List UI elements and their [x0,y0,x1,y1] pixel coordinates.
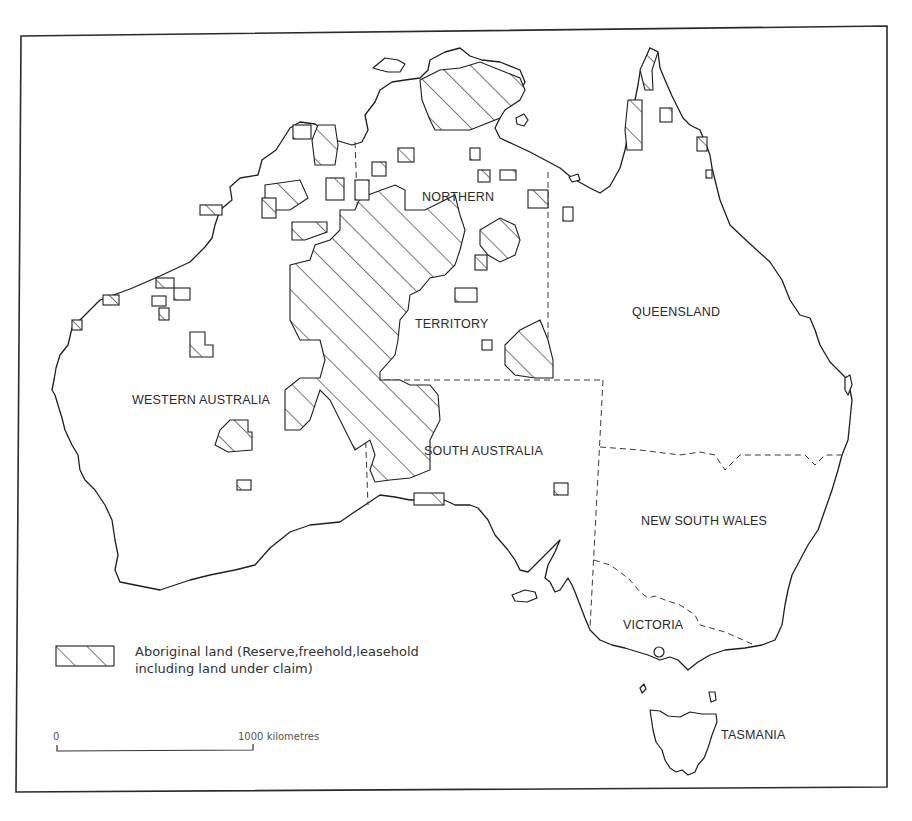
legend-text-line1: Aboriginal land (Reserve,freehold,leaseh… [135,644,419,659]
aboriginal-land-block [660,108,672,122]
label-tasmania: TASMANIA [721,728,786,742]
king-island [640,684,646,693]
aboriginal-land-block [152,296,166,306]
aboriginal-land-block [500,170,516,180]
flinders-island [709,692,716,702]
mainland-coastline [52,48,852,670]
aboriginal-land-block [262,198,276,218]
groote-eylandt [516,114,528,126]
legend-hatch-swatch-icon [56,646,114,666]
aboriginal-land-block [398,148,414,162]
aboriginal-land-block [414,493,444,505]
scale-start-label: 0 [53,731,59,742]
tiwi-islands [373,58,405,72]
scale-end-label: 1000 kilometres [238,731,319,742]
aboriginal-land-cape-york-west [625,100,642,150]
aboriginal-land-block [478,170,490,182]
aboriginal-land-kimberley [312,125,338,165]
australia-map: NORTHERN TERRITORY QUEENSLAND WESTERN AU… [0,0,912,821]
aboriginal-land-block [72,320,82,330]
label-queensland: QUEENSLAND [632,305,720,319]
label-victoria: VICTORIA [623,618,684,632]
aboriginal-land-block [482,340,492,350]
aboriginal-land-block [156,278,174,288]
aboriginal-land-block [455,288,477,302]
label-western-australia: WESTERN AUSTRALIA [132,393,271,407]
aboriginal-land-block [326,178,344,200]
aboriginal-land-block [563,207,573,221]
mornington-island [569,174,580,182]
legend-text-line2: including land under claim) [135,661,313,676]
aboriginal-land-block [174,288,190,300]
scale-bar: 0 1000 kilometres [53,731,319,751]
aboriginal-land-block [159,308,169,320]
aboriginal-land-block [475,255,487,270]
label-northern-territory-line2: TERRITORY [415,317,489,331]
port-phillip-bay [654,647,664,657]
scale-bar-line [57,744,253,751]
aboriginal-land-block [372,162,386,176]
label-northern-territory-line1: NORTHERN [422,190,494,204]
aboriginal-land-block [554,483,568,495]
label-new-south-wales: NEW SOUTH WALES [641,514,767,528]
aboriginal-land-block [706,170,712,178]
aboriginal-land-block [528,190,548,208]
aboriginal-land-block [200,205,222,215]
aboriginal-land-block [470,148,480,160]
kangaroo-island [512,590,537,602]
label-south-australia: SOUTH AUSTRALIA [424,444,543,458]
aboriginal-land-block [293,125,311,139]
aboriginal-land-block [697,137,707,151]
legend: Aboriginal land (Reserve,freehold,leaseh… [56,644,419,676]
aboriginal-land-block [237,480,251,490]
aboriginal-land-block [103,295,119,305]
aboriginal-land-block [355,180,369,200]
tasmania-outline [650,710,717,775]
